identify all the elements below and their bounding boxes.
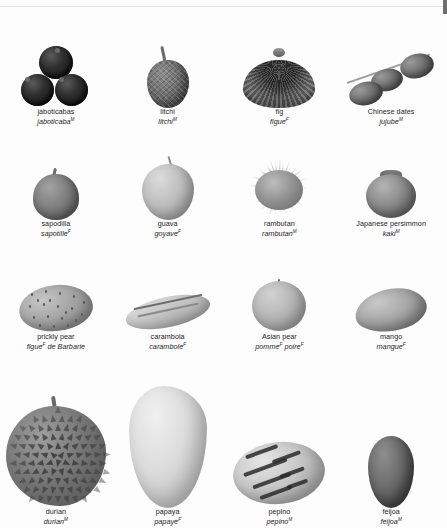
fruit-illustration xyxy=(224,240,336,333)
fruit-caption: pepino pepinoM xyxy=(266,508,292,528)
fruit-cell-pepino[interactable]: pepino pepinoM xyxy=(224,353,336,528)
fruit-illustration xyxy=(112,128,224,220)
fruit-name-fr: rambutanM xyxy=(262,229,297,238)
guava-fruit-icon xyxy=(142,156,194,220)
fruit-name-en: sapodilla xyxy=(41,220,71,228)
fruit-caption: litchi litchiM xyxy=(158,108,177,128)
fr-word: litchi xyxy=(158,117,173,126)
fruit-illustration xyxy=(224,10,336,108)
scan-edge-top xyxy=(0,6,443,7)
fruit-name-en: litchi xyxy=(158,108,177,116)
fr-word: jujube xyxy=(379,117,398,126)
fr-word: jaboticaba xyxy=(37,117,70,126)
fruit-cell-asian-pear[interactable]: Asian pear pommeF poireF xyxy=(224,240,336,353)
fr-word-tail: de Barbarie xyxy=(45,342,85,351)
gender-superscript: F xyxy=(68,229,71,234)
fruit-name-en: fig xyxy=(270,108,289,116)
fruit-name-fr: goyaveF xyxy=(154,229,180,238)
fruit-name-fr: figueF de Barbarie xyxy=(27,342,85,351)
fruit-caption: prickly pear figueF de Barbarie xyxy=(27,333,85,353)
gender-superscript: M xyxy=(399,117,403,122)
feijoa-fruit-icon xyxy=(368,436,414,508)
fruit-name-en: mango xyxy=(377,333,406,341)
fruit-caption: papaya papayeF xyxy=(154,508,181,528)
gender-superscript: F xyxy=(178,517,181,522)
fruit-illustration xyxy=(335,128,447,220)
fruit-caption: durian durianM xyxy=(44,508,68,528)
fruit-caption: jaboticabas jaboticabaM xyxy=(37,108,74,128)
fruit-name-fr: kakiM xyxy=(356,229,426,238)
gender-superscript: F xyxy=(178,229,181,234)
fruit-name-fr: sapotilleF xyxy=(41,229,71,238)
fruit-name-fr: jaboticabaM xyxy=(37,117,74,126)
fr-word: goyave xyxy=(154,229,177,238)
rambutan-fruit-icon xyxy=(241,156,317,220)
fr-word: feijoa xyxy=(380,517,397,526)
fruit-name-en: pepino xyxy=(266,508,292,516)
fruit-caption: rambutan rambutanM xyxy=(262,220,297,240)
fr-word: durian xyxy=(44,517,64,526)
fruit-cell-fig[interactable]: fig figueF xyxy=(224,10,336,128)
fruit-name-en: feijoa xyxy=(380,508,401,516)
fruit-cell-carambola[interactable]: carambola caramboleF xyxy=(112,240,224,353)
fruit-cell-papaya[interactable]: papaya papayeF xyxy=(112,353,224,528)
fruit-name-fr: jujubeM xyxy=(368,117,415,126)
fruit-name-fr: figueF xyxy=(270,117,289,126)
fruit-caption: Chinese dates jujubeM xyxy=(368,108,415,128)
papaya-fruit-icon xyxy=(129,386,207,508)
jaboticaba-fruit-icon xyxy=(17,46,95,108)
mango-fruit-icon xyxy=(355,287,427,333)
fruit-cell-chinese-dates[interactable]: Chinese dates jujubeM xyxy=(335,10,447,128)
fruit-cell-rambutan[interactable]: rambutan rambutanM xyxy=(224,128,336,240)
fruit-name-en: prickly pear xyxy=(27,333,85,341)
fruit-name-fr: pommeF poireF xyxy=(255,342,303,351)
gender-superscript-alt: F xyxy=(301,342,304,347)
fruit-name-en: carambola xyxy=(149,333,186,341)
fruit-illustration xyxy=(224,128,336,220)
durian-fruit-icon xyxy=(4,396,108,508)
fruit-name-fr: feijoaM xyxy=(380,517,401,526)
fr-word: figue xyxy=(270,117,286,126)
gender-superscript: F xyxy=(183,342,186,347)
fruit-illustration xyxy=(112,10,224,108)
fruit-row: durian durianM papaya papayeF xyxy=(0,353,447,528)
asian-pear-fruit-icon xyxy=(252,279,306,333)
fruit-caption: feijoa feijoaM xyxy=(380,508,401,528)
fruit-cell-mango[interactable]: mango mangueF xyxy=(335,240,447,353)
fruit-name-en: guava xyxy=(154,220,180,228)
fr-word: papaye xyxy=(154,517,178,526)
persimmon-fruit-icon xyxy=(366,170,416,220)
fruit-cell-prickly-pear[interactable]: prickly pear figueF de Barbarie xyxy=(0,240,112,353)
fr-word: pomme xyxy=(255,342,279,351)
fruit-caption: sapodilla sapotilleF xyxy=(41,220,71,240)
fruit-cell-guava[interactable]: guava goyaveF xyxy=(112,128,224,240)
pepino-fruit-icon xyxy=(233,438,325,508)
fruit-name-fr: durianM xyxy=(44,517,68,526)
fruit-cell-jaboticabas[interactable]: jaboticabas jaboticabaM xyxy=(0,10,112,128)
fruit-name-en: papaya xyxy=(154,508,181,516)
fruit-row: prickly pear figueF de Barbarie carambol… xyxy=(0,240,447,353)
fruit-caption: guava goyaveF xyxy=(154,220,180,240)
fruit-cell-feijoa[interactable]: feijoa feijoaM xyxy=(335,353,447,528)
fruit-illustration xyxy=(112,353,224,508)
fruit-cell-litchi[interactable]: litchi litchiM xyxy=(112,10,224,128)
fr-word: mangue xyxy=(377,342,403,351)
fruit-cell-japanese-persimmon[interactable]: Japanese persimmon kakiM xyxy=(335,128,447,240)
fr-word: sapotille xyxy=(41,229,68,238)
jujube-fruit-icon xyxy=(345,52,437,108)
fruit-name-fr: caramboleF xyxy=(149,342,186,351)
fruit-illustration xyxy=(335,353,447,508)
fruit-name-fr: papayeF xyxy=(154,517,181,526)
fr-word: kaki xyxy=(383,229,396,238)
fruit-illustration xyxy=(0,10,112,108)
fr-word: pepino xyxy=(266,517,288,526)
fr-word: figue xyxy=(27,342,43,351)
fruit-cell-sapodilla[interactable]: sapodilla sapotilleF xyxy=(0,128,112,240)
fruit-name-en: Asian pear xyxy=(255,333,303,341)
fruit-caption: carambola caramboleF xyxy=(149,333,186,353)
gender-superscript: M xyxy=(64,517,68,522)
fruit-caption: fig figueF xyxy=(270,108,289,128)
fruit-illustration xyxy=(0,240,112,333)
fruit-name-en: Chinese dates xyxy=(368,108,415,116)
fruit-cell-durian[interactable]: durian durianM xyxy=(0,353,112,528)
